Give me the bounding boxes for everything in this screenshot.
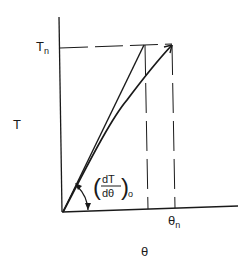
thetan-label: θn	[168, 213, 180, 230]
diagram-canvas: Tn T θn θ ( dT dθ ) o	[0, 0, 251, 274]
thetan-vertical-dashed	[172, 45, 175, 208]
slope-subscript: o	[128, 189, 133, 199]
y-axis-label: T	[13, 117, 21, 132]
angle-arc	[78, 187, 88, 210]
x-axis-label: θ	[141, 244, 148, 259]
slope-label: ( dT dθ ) o	[93, 173, 133, 200]
tn-label: Tn	[36, 39, 49, 56]
slope-denominator: dθ	[102, 187, 114, 199]
y-axis	[59, 17, 62, 212]
tangent-vertical-dashed	[145, 45, 148, 209]
tn-dashed-line	[60, 44, 172, 48]
slope-numerator: dT	[102, 173, 115, 185]
angle-arrow-bottom-icon	[85, 203, 91, 210]
svg-text:(: (	[93, 173, 101, 200]
